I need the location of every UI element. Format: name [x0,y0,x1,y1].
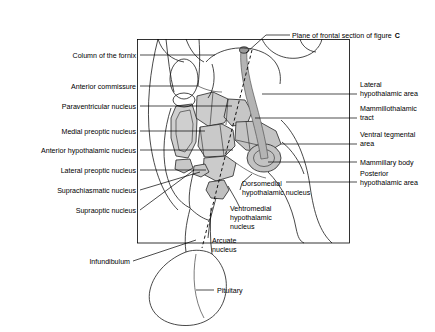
svg-text:Lateral: Lateral [360,81,382,89]
septum-outline-left [166,39,174,92]
label-suprachiasmatic-nucleus: Suprachiasmatic nucleus [57,187,136,195]
corpus-callosum-body-arc [186,39,204,62]
pituitary-gland-shape [149,250,226,325]
nucleus-arcuate-shape [206,180,229,199]
corpus-callosum-genu-arc [158,39,184,62]
hypothalamic-sulcus-line [198,86,222,92]
label-paraventricular-nucleus: Paraventricular nucleus [62,103,137,111]
pituitary-lobe-divider [194,254,204,318]
svg-text:Posterior: Posterior [360,170,389,178]
svg-text:hypothalamic area: hypothalamic area [360,179,418,187]
label-lateral-hypothalamic-area: Lateral hypothalamic area [360,81,418,98]
leader-arcuate-nucleus [208,198,216,238]
svg-text:Mammillary body: Mammillary body [360,159,414,167]
svg-text:tract: tract [360,114,374,122]
svg-text:Ventromedial: Ventromedial [230,205,272,213]
label-ventral-tegmental-area: Ventral tegmental area [360,131,416,148]
svg-text:Dorsomedial: Dorsomedial [242,180,282,188]
leader-plane-of-frontal-section [246,35,290,53]
label-anterior-hypothalamic-nucleus: Anterior hypothalamic nucleus [41,147,136,155]
hypothalamus-figure: Plane of frontal section of figureC Colu… [0,0,435,332]
svg-text:Arcuate: Arcuate [212,237,237,245]
label-mammillothalamic-tract: Mammillothalamic tract [360,105,417,122]
svg-text:hypothalamic nucleus: hypothalamic nucleus [242,189,311,197]
svg-text:hypothalamic: hypothalamic [230,214,272,222]
label-arcuate-nucleus: Arcuate nucleus [212,237,237,254]
svg-text:nucleus: nucleus [230,223,255,231]
plane-of-frontal-section-caption: Plane of frontal section of figureC [292,32,400,40]
svg-text:hypothalamic area: hypothalamic area [360,90,418,98]
svg-text:area: area [360,140,374,148]
optic-chiasm-stem-outline [189,174,193,208]
cerebral-peduncle-outline [282,142,304,174]
infundibulum-outline-left [185,209,190,252]
brainstem-outline-outer [281,120,332,243]
svg-text:Ventral tegmental: Ventral tegmental [360,131,416,139]
label-lateral-preoptic-nucleus: Lateral preoptic nucleus [61,167,137,175]
label-mammillary-body: Mammillary body [360,159,414,167]
label-posterior-hypothalamic-area: Posterior hypothalamic area [360,170,418,187]
label-anterior-commissure: Anterior commissure [71,83,136,91]
label-ventromedial-hypothalamic-nucleus: Ventromedial hypothalamic nucleus [230,205,272,231]
tuber-cinereum-outline [190,208,208,220]
svg-text:Mammillothalamic: Mammillothalamic [360,105,417,113]
nucleus-supraoptic-shape [175,159,193,173]
plane-caption-text: Plane of frontal section of figure [292,32,392,40]
corpus-callosum-inner-arc [300,39,316,52]
corpus-callosum-splenium-arc [262,39,322,58]
label-infundibulum: Infundibulum [89,258,130,266]
label-supraoptic-nucleus: Supraoptic nucleus [76,207,137,215]
nucleus-lower-medial-shape [203,156,236,181]
svg-text:nucleus: nucleus [212,246,237,254]
plane-caption-figure-letter: C [395,32,400,40]
label-column-of-the-fornix: Column of the fornix [73,52,137,60]
figure-canvas: Plane of frontal section of figureC Colu… [0,0,435,332]
label-pituitary: Pituitary [217,287,243,295]
label-medial-preoptic-nucleus: Medial preoptic nucleus [61,128,136,136]
